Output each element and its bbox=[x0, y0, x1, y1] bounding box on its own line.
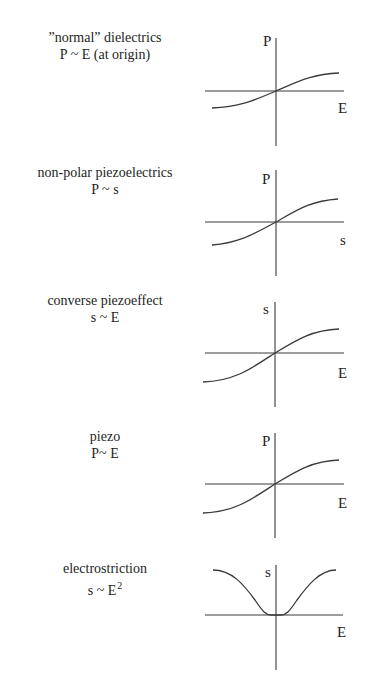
x-axis-label: E bbox=[338, 100, 347, 116]
y-axis-label: s bbox=[265, 564, 271, 580]
plots-canvas: P E P s s E P E s E bbox=[0, 0, 371, 696]
plot-normal-dielectrics: P E bbox=[205, 33, 347, 146]
x-axis-label: E bbox=[338, 365, 347, 381]
x-axis-label: E bbox=[338, 495, 347, 511]
response-curve bbox=[213, 570, 336, 615]
plot-non-polar-piezoelectrics: P s bbox=[205, 170, 346, 276]
plot-electrostriction: s E bbox=[205, 564, 346, 670]
x-axis-label: s bbox=[340, 232, 346, 248]
response-curve bbox=[203, 460, 339, 513]
plot-converse-piezoeffect: s E bbox=[203, 301, 347, 407]
y-axis-label: s bbox=[263, 301, 269, 317]
plot-piezo: P E bbox=[203, 433, 347, 538]
y-axis-label: P bbox=[262, 171, 270, 187]
response-curve bbox=[203, 329, 339, 382]
x-axis-label: E bbox=[337, 624, 346, 640]
y-axis-label: P bbox=[263, 33, 271, 49]
y-axis-label: P bbox=[262, 433, 270, 449]
